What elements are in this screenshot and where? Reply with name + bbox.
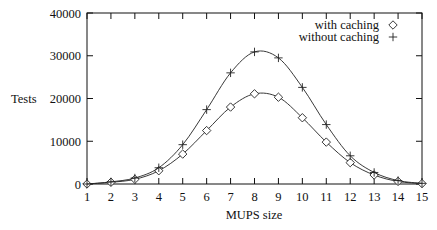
x-tick-label: 7	[227, 190, 233, 204]
x-tick-label: 15	[416, 190, 429, 204]
data-point	[298, 83, 306, 91]
x-tick-label: 6	[204, 190, 210, 204]
series-curve	[87, 93, 422, 184]
data-point	[418, 179, 426, 187]
y-axis-label: Tests	[11, 92, 37, 106]
y-tick-label: 10000	[50, 135, 81, 149]
x-tick-label: 11	[320, 190, 332, 204]
x-tick-label: 5	[180, 190, 186, 204]
y-tick-label: 40000	[50, 7, 81, 21]
x-tick-label: 13	[368, 190, 381, 204]
x-tick-label: 4	[156, 190, 163, 204]
data-point	[322, 120, 330, 128]
x-axis-label: MUPS size	[226, 208, 283, 222]
data-point	[250, 48, 258, 56]
line-chart: 010000200003000040000 123456789101112131…	[0, 0, 437, 230]
legend-label: without caching	[299, 30, 380, 44]
x-tick-label: 3	[132, 190, 138, 204]
x-tick-label: 10	[296, 190, 309, 204]
x-tick-label: 14	[392, 190, 405, 204]
data-point	[250, 90, 258, 98]
data-point	[107, 178, 115, 186]
data-point	[202, 105, 210, 113]
series-curve	[87, 51, 422, 184]
x-tick-label: 12	[344, 190, 357, 204]
legend-plus-icon	[389, 33, 397, 41]
y-tick-label: 0	[75, 178, 81, 192]
data-point	[83, 180, 91, 188]
x-tick-label: 8	[251, 190, 257, 204]
legend-diamond-icon	[389, 21, 397, 29]
y-tick-label: 30000	[50, 49, 81, 63]
x-tick-label: 9	[275, 190, 281, 204]
x-tick-label: 2	[108, 190, 114, 204]
legend: with cachingwithout caching	[299, 18, 397, 44]
y-tick-label: 20000	[50, 92, 81, 106]
series-layer	[83, 48, 426, 188]
series-with-caching	[83, 90, 426, 189]
series-without-caching	[83, 48, 426, 188]
x-tick-label: 1	[84, 190, 90, 204]
data-point	[274, 93, 282, 101]
